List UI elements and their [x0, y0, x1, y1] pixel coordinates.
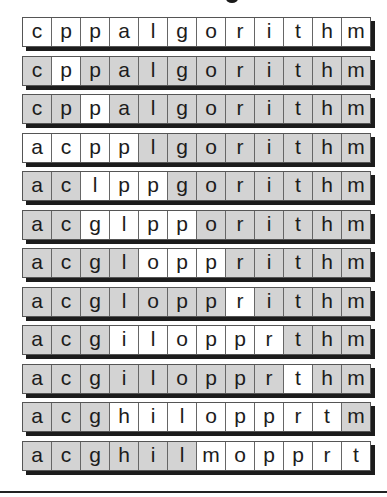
array-cell: a	[23, 288, 52, 316]
array-cell: h	[313, 211, 342, 239]
array-cell: o	[139, 249, 168, 277]
array-cell: t	[342, 442, 370, 470]
array-cell: i	[255, 95, 284, 123]
array-cell: r	[226, 288, 255, 316]
array-cell: a	[23, 365, 52, 393]
array-cell: p	[168, 288, 197, 316]
array-cell: m	[342, 134, 370, 162]
array-cell: t	[284, 134, 313, 162]
array-cell: r	[313, 442, 342, 470]
array-cell: r	[284, 403, 313, 431]
array-cell: c	[52, 326, 81, 354]
array-cell: t	[284, 95, 313, 123]
array-cell: r	[226, 172, 255, 200]
array-cell: l	[81, 172, 110, 200]
array-cell: m	[342, 326, 370, 354]
array-cell: m	[342, 57, 370, 85]
array-cell: t	[284, 288, 313, 316]
array-cell: o	[197, 57, 226, 85]
array-cell: i	[255, 172, 284, 200]
array-cell: c	[23, 95, 52, 123]
array-cell: c	[52, 365, 81, 393]
array-cell: p	[139, 211, 168, 239]
array-cell: r	[226, 134, 255, 162]
array-cell: h	[313, 249, 342, 277]
array-row: acghilmopprt	[22, 441, 371, 471]
array-cell: i	[255, 18, 284, 46]
array-cell: p	[255, 442, 284, 470]
array-cell: c	[23, 18, 52, 46]
array-cell: o	[197, 18, 226, 46]
array-cell: t	[284, 18, 313, 46]
array-row: acglopprithm	[22, 248, 371, 278]
array-row: acpplgorithm	[22, 133, 371, 163]
array-cell: p	[168, 249, 197, 277]
array-cell: i	[255, 134, 284, 162]
array-cell: h	[313, 326, 342, 354]
array-cell: g	[81, 442, 110, 470]
array-cell: a	[23, 172, 52, 200]
array-cell: p	[197, 365, 226, 393]
bottom-rule	[0, 491, 387, 493]
array-row: cppalgorithm	[22, 17, 371, 47]
array-cell: g	[81, 403, 110, 431]
array-cell: m	[342, 365, 370, 393]
array-cell: m	[342, 172, 370, 200]
array-row: acgilopprthm	[22, 364, 371, 394]
array-cell: g	[81, 288, 110, 316]
array-cell: l	[110, 249, 139, 277]
array-cell: r	[255, 326, 284, 354]
array-cell: p	[139, 172, 168, 200]
array-cell: c	[52, 134, 81, 162]
array-cell: g	[81, 249, 110, 277]
array-cell: c	[52, 288, 81, 316]
array-cell: o	[197, 95, 226, 123]
array-cell: p	[168, 211, 197, 239]
array-cell: c	[23, 57, 52, 85]
array-cell: t	[284, 57, 313, 85]
array-cell: i	[255, 288, 284, 316]
array-cell: m	[342, 211, 370, 239]
array-cell: t	[284, 211, 313, 239]
array-cell: g	[168, 95, 197, 123]
array-cell: g	[81, 365, 110, 393]
array-cell: o	[197, 172, 226, 200]
array-cell: r	[226, 18, 255, 46]
array-cell: a	[110, 18, 139, 46]
array-cell: h	[313, 57, 342, 85]
array-cell: o	[197, 134, 226, 162]
array-cell: t	[284, 365, 313, 393]
array-cell: g	[81, 326, 110, 354]
array-cell: r	[226, 249, 255, 277]
array-cell: p	[52, 18, 81, 46]
array-cell: l	[139, 18, 168, 46]
array-cell: a	[110, 57, 139, 85]
array-row: cppalgorithm	[22, 56, 371, 86]
array-cell: l	[139, 134, 168, 162]
array-cell: o	[168, 365, 197, 393]
array-cell: g	[81, 211, 110, 239]
array-cell: p	[81, 95, 110, 123]
array-cell: h	[313, 95, 342, 123]
array-cell: c	[52, 172, 81, 200]
array-cell: h	[110, 403, 139, 431]
array-cell: i	[110, 365, 139, 393]
array-cell: i	[255, 211, 284, 239]
array-cell: g	[168, 18, 197, 46]
array-cell: o	[226, 442, 255, 470]
array-cell: g	[168, 134, 197, 162]
array-cell: i	[139, 442, 168, 470]
array-cell: m	[197, 442, 226, 470]
array-cell: h	[313, 288, 342, 316]
array-cell: g	[168, 172, 197, 200]
array-cell: p	[81, 57, 110, 85]
array-cell: p	[110, 172, 139, 200]
array-cell: t	[313, 403, 342, 431]
array-cell: p	[81, 18, 110, 46]
array-cell: m	[342, 288, 370, 316]
array-row: cppalgorithm	[22, 94, 371, 124]
array-cell: a	[110, 95, 139, 123]
array-cell: m	[342, 95, 370, 123]
array-cell: p	[110, 134, 139, 162]
array-cell: h	[313, 18, 342, 46]
